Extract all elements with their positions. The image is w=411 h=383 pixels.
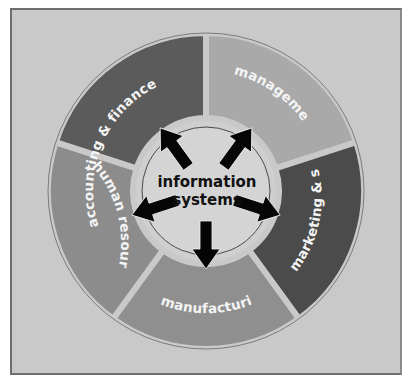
center-label-line2: systems <box>172 191 242 209</box>
center-label-line1: information <box>157 173 256 191</box>
diagram-canvas: information systems management accountin… <box>0 0 411 383</box>
